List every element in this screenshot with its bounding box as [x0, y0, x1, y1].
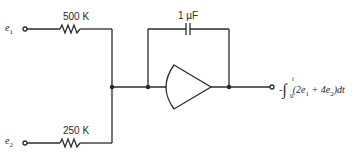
input-terminal-e1: [23, 27, 27, 31]
resistor-label-500k: 500 K: [63, 12, 89, 22]
input-terminal-e2: [23, 141, 27, 145]
junction-node: [110, 85, 113, 88]
output-terminal: [270, 85, 274, 89]
capacitor-label: 1 µF: [178, 11, 198, 21]
junction-node: [227, 85, 230, 88]
input-label-e1: e1: [5, 23, 13, 36]
resistor-label-250k: 250 K: [63, 126, 89, 136]
circuit-schematic: [0, 0, 360, 156]
op-amp-symbol: [166, 65, 211, 109]
resistor-500k: [60, 25, 80, 33]
resistor-250k: [60, 139, 80, 147]
output-expression: -∫t0(2e1 + 4e2)dt: [279, 80, 345, 98]
input-label-e2: e2: [5, 136, 13, 149]
